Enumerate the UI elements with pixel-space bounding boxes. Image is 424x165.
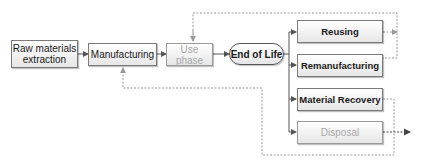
node-remanufacturing: Remanufacturing (297, 54, 383, 77)
node-label: Use phase (167, 44, 212, 66)
node-material-recovery: Material Recovery (297, 88, 383, 111)
node-manufacturing: Manufacturing (88, 43, 157, 66)
node-end-of-life: End of Life (229, 43, 284, 65)
node-label: End of Life (231, 49, 283, 60)
node-label: Remanufacturing (301, 60, 379, 71)
node-reusing: Reusing (297, 20, 383, 43)
node-label: Material Recovery (299, 94, 380, 105)
node-disposal: Disposal (297, 121, 383, 144)
node-label: Raw materials extraction (12, 43, 77, 65)
node-label: Disposal (321, 127, 359, 138)
node-raw-materials: Raw materials extraction (11, 40, 78, 68)
node-label: Reusing (321, 26, 358, 37)
lifecycle-diagram: Raw materials extraction Manufacturing U… (0, 0, 424, 165)
node-use-phase: Use phase (166, 43, 213, 66)
node-label: Manufacturing (91, 49, 154, 60)
